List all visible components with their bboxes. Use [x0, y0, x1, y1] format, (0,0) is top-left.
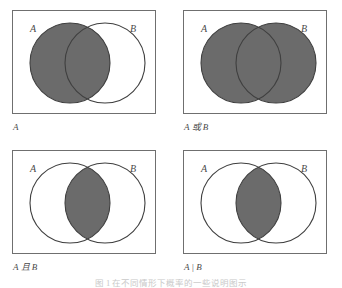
panel-set-a: A B A	[12, 10, 160, 138]
venn-box: A B	[183, 150, 327, 254]
panel-caption: A 或 B	[184, 123, 331, 132]
venn-box: A B	[12, 150, 156, 254]
set-b-label: B	[301, 24, 307, 34]
panel-caption: A	[13, 123, 160, 132]
panel-a-and-b: A B A 且 B	[12, 150, 160, 278]
set-b-label: B	[130, 24, 136, 34]
set-a-label: A	[201, 164, 207, 174]
set-a-label: A	[30, 24, 36, 34]
venn-box: A B	[183, 10, 327, 114]
panel-caption: A 且 B	[13, 263, 160, 272]
venn-box: A B	[12, 10, 156, 114]
set-a-label: A	[30, 164, 36, 174]
venn-diagram-figure: A B A A B A 或 B	[0, 0, 342, 288]
panel-a-given-b: A B A | B	[183, 150, 331, 278]
panel-a-or-b: A B A 或 B	[183, 10, 331, 138]
figure-caption: 图 1 在不同情形下概率的一些说明图示	[0, 279, 342, 288]
set-b-label: B	[130, 164, 136, 174]
set-a-label: A	[201, 24, 207, 34]
set-b-label: B	[301, 164, 307, 174]
panel-caption: A | B	[184, 263, 331, 272]
